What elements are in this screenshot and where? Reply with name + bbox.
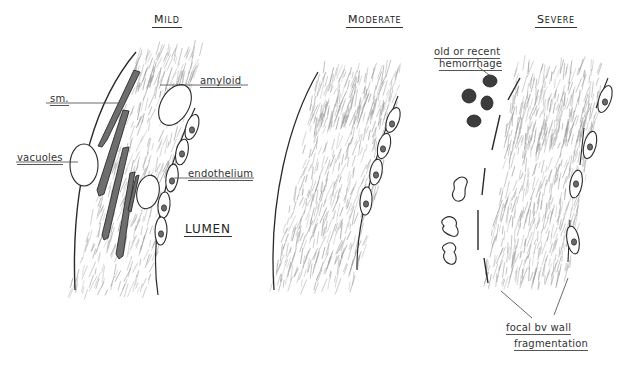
hatch-stroke bbox=[140, 259, 141, 266]
hatch-stroke bbox=[160, 91, 161, 97]
hatch-stroke bbox=[550, 211, 552, 224]
hatch-stroke bbox=[524, 202, 528, 214]
hatch-stroke bbox=[136, 136, 143, 152]
hatch-stroke bbox=[134, 226, 136, 239]
hatch-stroke bbox=[362, 175, 366, 184]
hatch-stroke bbox=[504, 231, 505, 240]
hatch-stroke bbox=[557, 256, 562, 272]
hatch-stroke bbox=[141, 226, 143, 235]
hatch-stroke bbox=[347, 143, 349, 158]
hatch-stroke bbox=[512, 166, 515, 176]
hatch-stroke bbox=[309, 236, 311, 243]
hatch-stroke bbox=[553, 259, 554, 275]
hatch-stroke bbox=[539, 110, 542, 117]
hatch-stroke bbox=[322, 125, 326, 134]
cell-nucleus-icon bbox=[363, 201, 368, 207]
hatch-stroke bbox=[515, 253, 519, 263]
hatch-stroke bbox=[504, 171, 508, 187]
fragmentation-leader-line bbox=[501, 291, 532, 318]
hatch-stroke bbox=[560, 147, 562, 158]
hatch-stroke bbox=[317, 269, 322, 283]
hatch-stroke bbox=[545, 121, 546, 136]
hatch-stroke bbox=[555, 254, 556, 260]
hatch-stroke bbox=[159, 80, 162, 89]
hemosiderin-cell-outline bbox=[453, 177, 467, 201]
hatch-stroke bbox=[155, 84, 157, 98]
hatch-stroke bbox=[329, 194, 331, 200]
cell-nucleus-icon bbox=[389, 121, 394, 127]
hatch-stroke bbox=[514, 230, 515, 243]
hatch-stroke bbox=[494, 255, 495, 267]
cell-nucleus-icon bbox=[158, 231, 163, 237]
hatch-stroke bbox=[174, 126, 178, 141]
hatch-stroke bbox=[283, 280, 284, 288]
hatch-stroke bbox=[352, 155, 356, 166]
hatch-stroke bbox=[283, 240, 287, 249]
hatch-stroke bbox=[554, 120, 555, 131]
cell-nucleus-icon bbox=[169, 178, 174, 184]
hatch-stroke bbox=[522, 174, 525, 191]
hatch-stroke bbox=[118, 281, 121, 291]
hatch-stroke bbox=[540, 235, 541, 242]
label-amyloid: amyloid bbox=[200, 75, 241, 88]
hatch-stroke bbox=[589, 75, 590, 83]
hatch-stroke bbox=[519, 170, 521, 181]
hatch-stroke bbox=[281, 264, 286, 280]
hatch-stroke bbox=[325, 76, 328, 87]
hatch-stroke bbox=[352, 72, 354, 79]
hatch-stroke bbox=[158, 77, 159, 83]
hatch-stroke bbox=[527, 238, 533, 254]
hatch-stroke bbox=[561, 222, 563, 230]
hatch-stroke bbox=[99, 209, 104, 224]
hatch-stroke bbox=[531, 114, 533, 120]
hatch-stroke bbox=[335, 278, 340, 294]
hatch-stroke bbox=[163, 53, 167, 62]
hatch-stroke bbox=[310, 126, 311, 132]
hatch-stroke bbox=[493, 255, 498, 267]
hatch-stroke bbox=[304, 248, 310, 263]
hatch-stroke bbox=[574, 139, 579, 153]
hatch-stroke bbox=[496, 273, 497, 287]
hatch-stroke bbox=[571, 134, 573, 144]
hatch-stroke bbox=[516, 106, 517, 115]
hatch-stroke bbox=[345, 222, 348, 234]
label-endothelium: endothelium bbox=[188, 168, 253, 181]
hatch-stroke bbox=[562, 123, 563, 129]
hatch-stroke bbox=[491, 230, 492, 236]
severe-vessel bbox=[442, 55, 615, 318]
hatch-stroke bbox=[544, 275, 545, 283]
hatch-stroke bbox=[333, 116, 337, 127]
hatch-stroke bbox=[314, 159, 317, 174]
hatch-stroke bbox=[141, 235, 145, 250]
hatch-stroke bbox=[351, 125, 353, 135]
hatch-stroke bbox=[89, 230, 92, 240]
hatch-stroke bbox=[488, 261, 489, 267]
hatch-stroke bbox=[588, 87, 590, 105]
hatch-stroke bbox=[531, 272, 535, 288]
hatch-stroke bbox=[322, 156, 325, 168]
hatch-stroke bbox=[325, 157, 328, 164]
hatch-stroke bbox=[592, 82, 594, 97]
hatch-stroke bbox=[562, 85, 564, 97]
hatch-stroke bbox=[542, 237, 548, 254]
label-lumen: LUMEN bbox=[184, 224, 232, 237]
hatch-stroke bbox=[348, 246, 352, 260]
hatch-stroke bbox=[509, 215, 511, 222]
hatch-stroke bbox=[159, 130, 164, 142]
hatch-stroke bbox=[376, 78, 379, 89]
hatch-stroke bbox=[516, 238, 518, 248]
hatch-stroke bbox=[177, 127, 181, 137]
hatch-stroke bbox=[564, 202, 570, 217]
hatch-stroke bbox=[358, 129, 359, 137]
hatch-stroke bbox=[303, 240, 306, 249]
hatch-stroke bbox=[564, 244, 565, 252]
hatch-stroke bbox=[314, 96, 316, 111]
hatch-stroke bbox=[299, 189, 300, 196]
hatch-stroke bbox=[498, 266, 499, 277]
hatch-stroke bbox=[586, 122, 588, 131]
hatch-stroke bbox=[523, 260, 524, 274]
hemorrhage-blob bbox=[467, 115, 481, 127]
hatch-stroke bbox=[310, 186, 311, 196]
hemorrhage-blob bbox=[483, 75, 497, 87]
hatch-stroke bbox=[339, 163, 340, 171]
